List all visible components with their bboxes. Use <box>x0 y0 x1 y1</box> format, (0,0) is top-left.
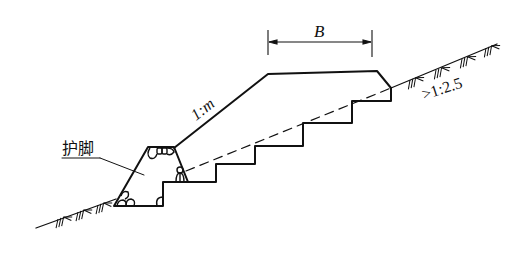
embankment-outline <box>174 71 391 182</box>
toe-protection <box>114 147 188 206</box>
diagram-canvas: B 1:m >1:2.5 护脚 <box>0 0 530 253</box>
label-toe: 护脚 <box>62 139 94 158</box>
label-width-B: B <box>314 22 325 41</box>
label-ground-slope: >1:2.5 <box>420 74 465 103</box>
ground-line <box>36 44 497 228</box>
label-fill-slope: 1:m <box>187 95 217 124</box>
